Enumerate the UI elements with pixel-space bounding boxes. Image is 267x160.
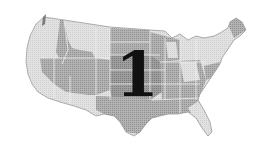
us-map-illustration: 1 — [0, 0, 267, 160]
number-one-overlay: 1 — [113, 50, 161, 100]
